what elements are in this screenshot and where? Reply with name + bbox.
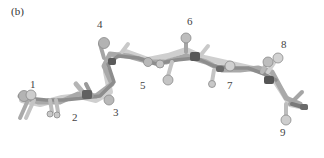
atom: [225, 61, 235, 71]
atom: [181, 33, 191, 43]
residue-label-8: 8: [281, 39, 287, 50]
residue-label-2: 2: [72, 112, 78, 123]
atom: [104, 95, 114, 105]
atom: [281, 115, 291, 125]
residue-label-3: 3: [113, 107, 119, 118]
atom: [54, 112, 60, 118]
atom: [209, 81, 216, 88]
residue-label-6: 6: [187, 16, 193, 27]
residue-label-1: 1: [30, 79, 36, 90]
peptide-structure-diagram: [0, 0, 324, 158]
backbone-light: [22, 50, 300, 106]
atom: [163, 75, 173, 85]
residue-label-7: 7: [227, 80, 233, 91]
atom: [263, 57, 273, 67]
atom: [144, 58, 153, 67]
residue-label-4: 4: [97, 19, 103, 30]
atom: [26, 90, 36, 100]
atom: [99, 38, 110, 49]
residue-label-5: 5: [140, 80, 146, 91]
atom: [47, 111, 53, 117]
atom: [273, 53, 283, 63]
atom: [156, 60, 164, 68]
residue-label-9: 9: [280, 127, 286, 138]
